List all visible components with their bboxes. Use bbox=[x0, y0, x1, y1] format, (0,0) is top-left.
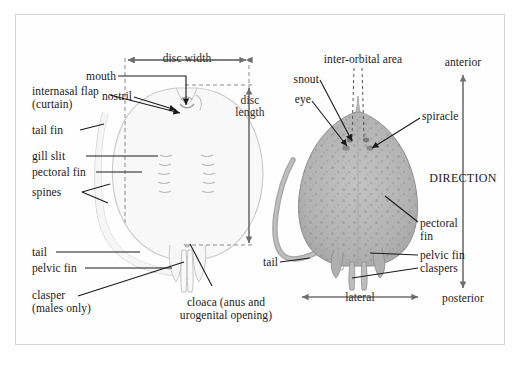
nostril-label: nostril bbox=[102, 90, 132, 103]
pectoral-fin-label-ventral: pectoral fin bbox=[32, 166, 86, 179]
pelvic-fin-label-dorsal: pelvic fin bbox=[420, 249, 465, 262]
snout-label: snout bbox=[294, 73, 319, 86]
figure-page: disc width mouth nostril internasal flap… bbox=[0, 0, 522, 384]
internasal-flap-label-line1: internasal flap bbox=[32, 85, 99, 98]
internasal-flap-label-line2: (curtain) bbox=[32, 98, 73, 111]
cloaca-label-line2: urogenital opening) bbox=[180, 309, 272, 322]
dorsal-specimen-drawing bbox=[275, 96, 418, 290]
ventral-specimen-drawing bbox=[95, 88, 263, 292]
clasper-label-line2: (males only) bbox=[32, 302, 91, 315]
spiracle-label: spiracle bbox=[422, 110, 459, 123]
spines-label: spines bbox=[32, 186, 61, 199]
claspers-label: claspers bbox=[420, 262, 458, 275]
pectoral-fin-label-dorsal-line2: fin bbox=[420, 230, 433, 243]
anatomy-illustration bbox=[0, 0, 522, 384]
anterior-label: anterior bbox=[445, 56, 482, 69]
clasper-label-line1: clasper bbox=[32, 289, 65, 302]
pelvic-fin-label-ventral: pelvic fin bbox=[32, 262, 77, 275]
lateral-label: lateral bbox=[345, 291, 374, 304]
gill-slit-label: gill slit bbox=[32, 150, 65, 163]
posterior-label: posterior bbox=[442, 292, 484, 305]
tail-label-ventral: tail bbox=[32, 246, 47, 259]
cloaca-label-line1: cloaca (anus and bbox=[187, 296, 265, 309]
tail-label-dorsal: tail bbox=[263, 256, 278, 269]
pectoral-fin-label-dorsal-line1: pectoral bbox=[420, 217, 458, 230]
tail-fin-label: tail fin bbox=[32, 124, 63, 137]
disc-length-label-line1: disc bbox=[241, 94, 260, 107]
direction-label: DIRECTION bbox=[429, 172, 496, 185]
disc-length-label-line2: length bbox=[235, 106, 264, 119]
inter-orbital-area-label: inter-orbital area bbox=[324, 53, 403, 66]
mouth-label: mouth bbox=[86, 70, 116, 83]
disc-width-label: disc width bbox=[163, 52, 212, 65]
eye-label: eye bbox=[295, 93, 311, 106]
